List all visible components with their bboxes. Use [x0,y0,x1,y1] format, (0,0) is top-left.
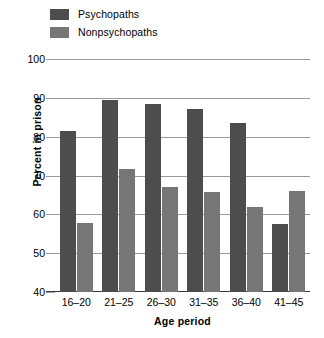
y-axis-tick [46,98,55,99]
y-axis-tick-labels: 100908070605040 [19,59,45,292]
gridline [55,98,310,99]
bar-chart: Psychopaths Nonpsychopaths Percent in pr… [0,0,324,338]
bar [119,169,135,292]
y-axis-tick-label: 40 [21,287,45,297]
legend-label-psychopaths: Psychopaths [78,9,139,20]
legend-swatch-nonpsychopaths [50,27,69,38]
gridline [55,59,310,60]
x-axis-tick-labels: 16–2021–2526–3031–3536–4041–45 [55,296,310,310]
x-axis-title: Age period [55,315,310,327]
gridline [55,137,310,138]
chart-legend: Psychopaths Nonpsychopaths [50,6,290,42]
y-axis-tick-label: 50 [21,248,45,258]
bar [187,109,203,292]
x-axis-tick-label: 31–35 [183,296,226,308]
x-axis-tick-label: 16–20 [55,296,98,308]
y-axis-tick-label: 80 [21,132,45,142]
x-axis-tick-label: 26–30 [140,296,183,308]
y-axis-tick [46,253,55,254]
x-axis-tick-label: 41–45 [268,296,311,308]
y-axis-tick-label: 60 [21,209,45,219]
bar [272,224,288,292]
y-axis-tick-label: 100 [21,54,45,64]
bar [162,187,178,292]
y-axis-tick [46,176,55,177]
x-axis-tick-label: 21–25 [98,296,141,308]
legend-item-psychopaths: Psychopaths [50,6,290,22]
bar [60,131,76,292]
x-axis-tick-label: 36–40 [225,296,268,308]
bar [247,207,263,292]
bar [77,223,93,292]
bar [102,100,118,292]
plot-area [55,59,310,292]
bar [204,192,220,292]
legend-label-nonpsychopaths: Nonpsychopaths [78,27,158,38]
y-axis-tick-label: 90 [21,93,45,103]
y-axis-tick [46,137,55,138]
bar [289,191,305,292]
legend-swatch-psychopaths [50,9,69,20]
bar [230,123,246,292]
gridline [55,214,310,215]
y-axis-tick [46,59,55,60]
y-axis-tick [46,214,55,215]
legend-item-nonpsychopaths: Nonpsychopaths [50,24,290,40]
gridline [55,176,310,177]
y-axis-tick [46,292,55,293]
y-axis-tick-label: 70 [21,171,45,181]
bar [145,104,161,292]
